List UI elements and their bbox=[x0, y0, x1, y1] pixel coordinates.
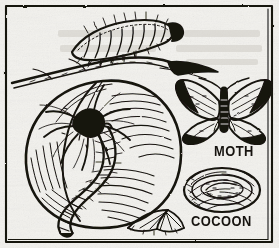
cocoon bbox=[184, 167, 260, 213]
engraving-figure: MOTH COCOON bbox=[0, 0, 279, 248]
caterpillar-on-fruit bbox=[58, 124, 122, 237]
fruit bbox=[26, 81, 181, 237]
calyx bbox=[39, 85, 134, 171]
engraving-artwork bbox=[0, 0, 279, 248]
moth bbox=[176, 78, 272, 144]
moth-label: MOTH bbox=[214, 143, 254, 159]
twig bbox=[12, 58, 218, 89]
cocoon-label: COCOON bbox=[191, 213, 252, 229]
